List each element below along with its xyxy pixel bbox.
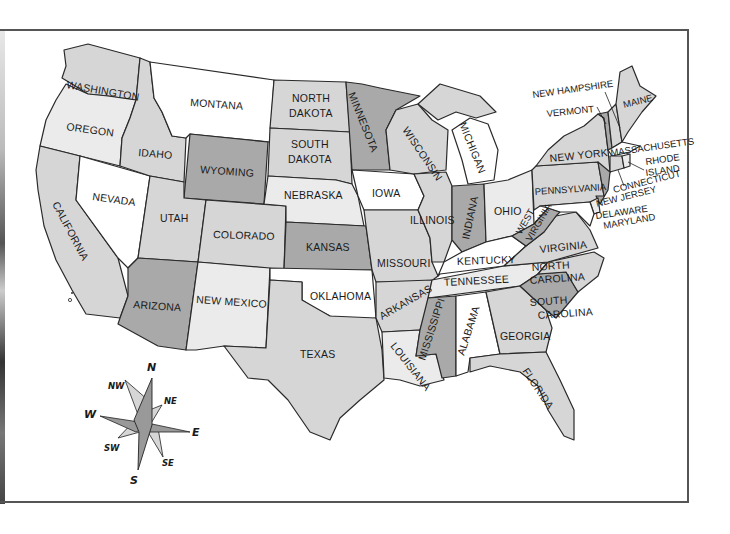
compass-s: S [130,474,138,487]
label-nebraska: NEBRASKA [284,189,343,201]
compass-nw: NW [108,381,125,391]
compass-se: SE [162,458,174,468]
label-south-carolina-2: CAROLINA [537,305,593,321]
label-kansas: KANSAS [306,241,350,253]
label-south-dakota-1: SOUTH [291,138,329,150]
label-oklahoma: OKLAHOMA [310,290,371,302]
label-illinois: ILLINOIS [410,214,455,226]
compass-ne: NE [164,396,177,406]
compass-n: N [147,361,156,374]
state-michigan-upper[interactable] [418,84,496,120]
label-colorado: COLORADO [213,228,275,242]
compass-rose: N NE E SE S SW W NW [84,361,200,487]
label-missouri: MISSOURI [377,257,431,269]
label-utah: UTAH [160,212,189,224]
label-vermont: VERMONT [546,103,595,119]
label-new-hampshire: NEW HAMPSHIRE [532,78,614,100]
compass-sw: SW [104,443,120,453]
label-north-dakota-1: NORTH [292,92,330,104]
label-ohio: OHIO [494,205,522,217]
channel-islands-dot [71,292,73,294]
label-texas: TEXAS [300,348,335,360]
label-kentucky: KENTUCKY [457,253,516,267]
state-florida[interactable] [470,352,574,440]
state-north-dakota[interactable] [270,80,350,132]
compass-point-e [148,424,190,432]
compass-e: E [192,426,200,439]
us-map: WASHINGTON OREGON CALIFORNIA NEVADA IDAH… [0,0,730,534]
channel-islands [68,298,71,301]
label-north-dakota-2: DAKOTA [289,107,333,119]
label-georgia: GEORGIA [500,330,550,342]
compass-w: W [84,408,97,421]
label-iowa: IOWA [372,187,400,199]
label-south-dakota-2: DAKOTA [288,153,332,165]
